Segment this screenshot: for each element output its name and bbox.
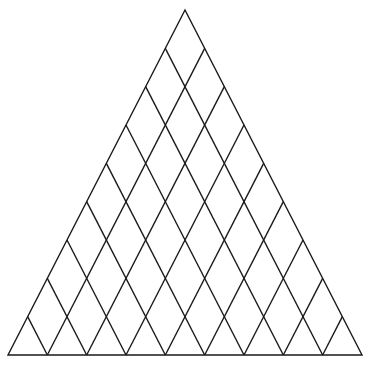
grid-line-parallel-left [165, 163, 263, 355]
grid-line-parallel-left [323, 317, 343, 355]
triangle-outline [8, 10, 362, 355]
diamond-grid-lines [28, 48, 343, 355]
grid-line-parallel-right [146, 87, 284, 355]
triangle-lattice-diagram [0, 0, 370, 368]
grid-line-parallel-right [67, 240, 126, 355]
grid-line-parallel-right [106, 163, 204, 355]
grid-line-parallel-left [87, 87, 225, 355]
grid-line-parallel-left [244, 240, 303, 355]
grid-line-parallel-right [28, 317, 48, 355]
